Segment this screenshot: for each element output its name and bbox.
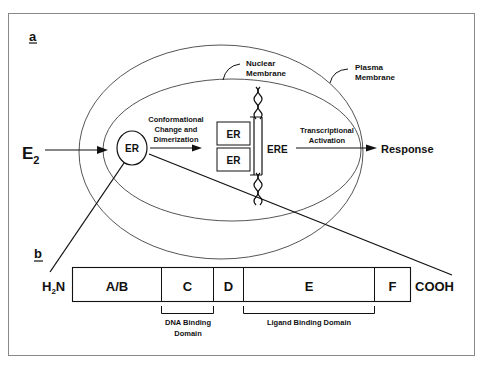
transcriptional-label-1: Transcriptional [300, 126, 354, 135]
domain-e: E [305, 279, 314, 294]
e2-ligand: E2 [22, 144, 39, 166]
dna-binding-label-1: DNA Binding [165, 318, 211, 327]
conformational-label-1: Conformational [148, 115, 203, 124]
domain-c: C [183, 279, 193, 294]
domain-f: F [389, 279, 397, 294]
response-label: Response [381, 143, 434, 155]
dna-helix-top [254, 87, 262, 119]
plasma-membrane-label-1: Plasma [355, 63, 384, 72]
dna-binding-label-2: Domain [174, 329, 202, 338]
plasma-membrane-leader [330, 69, 348, 83]
figure-frame [9, 14, 475, 356]
zoom-line-left [50, 163, 124, 272]
e2-arrowhead [97, 146, 108, 154]
n-terminus-label: H2N [42, 279, 65, 296]
ligand-binding-label: Ligand Binding Domain [267, 318, 352, 327]
er-signaling-diagram: a Nuclear Membrane Plasma Membrane E2 ER… [0, 0, 483, 365]
transcriptional-label-2: Activation [309, 136, 346, 145]
nuclear-membrane-label-2: Membrane [246, 69, 287, 78]
ligand-binding-bracket [244, 306, 375, 314]
plasma-membrane-label-2: Membrane [355, 73, 396, 82]
er-receptor-label: ER [125, 143, 140, 154]
c-terminus-label: COOH [415, 279, 454, 294]
dimerization-arrowhead [192, 145, 202, 152]
er-dimer-bottom-label: ER [227, 155, 242, 166]
domain-d: D [224, 279, 233, 294]
dna-helix-bottom [254, 173, 262, 205]
conformational-label-2: Change and [155, 125, 198, 134]
conformational-label-3: Dimerization [153, 135, 198, 144]
ere-label: ERE [267, 144, 288, 155]
panel-b-label: b [34, 246, 42, 261]
panel-a-label: a [29, 29, 37, 44]
activation-arrowhead [366, 145, 377, 152]
dna-binding-bracket [162, 306, 214, 314]
domain-ab: A/B [106, 279, 128, 294]
nuclear-membrane-leader [223, 64, 240, 80]
nuclear-membrane-label-1: Nuclear [246, 59, 275, 68]
er-dimer-top-label: ER [227, 129, 242, 140]
